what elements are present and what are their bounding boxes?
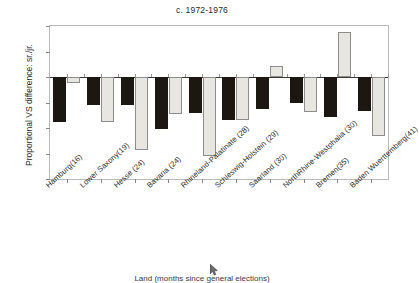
x-axis-minor-tick [388,74,389,77]
bar-senior-6 [256,77,269,109]
x-axis-tick [101,179,102,183]
mouse-cursor-icon [210,264,219,276]
x-axis-minor-tick [253,74,254,77]
x-axis-minor-tick [151,74,152,77]
bar-senior-4 [189,77,202,113]
x-axis-tick [168,179,169,183]
x-axis-minor-tick [354,74,355,77]
y-axis-title: Proportional VS difference: sr./jr. [24,20,34,190]
x-axis-title: Land (months since general elections) [0,274,404,283]
y-axis-tick [46,77,50,78]
x-axis-tick [304,179,305,183]
x-axis-minor-tick [185,74,186,77]
bar-senior-2 [121,77,134,105]
bar-senior-1 [87,77,100,105]
y-axis-tick [46,154,50,155]
x-axis-tick [371,179,372,183]
x-axis-tick [67,179,68,183]
bar-junior-6 [270,66,283,77]
bar-junior-1 [101,77,114,122]
bar-junior-3 [169,77,182,114]
x-axis-tick [202,179,203,183]
bar-senior-8 [324,77,337,117]
bar-senior-5 [222,77,235,120]
x-axis-tick [337,179,338,183]
y-axis-tick [46,52,50,53]
bar-senior-3 [155,77,168,129]
bar-junior-2 [135,77,148,150]
x-axis-minor-tick [287,74,288,77]
bar-junior-9 [372,77,385,136]
bar-junior-0 [67,77,80,83]
bar-junior-7 [304,77,317,112]
y-axis-tick [46,103,50,104]
x-axis-minor-tick [84,74,85,77]
bar-senior-0 [53,77,66,122]
x-axis-minor-tick [320,74,321,77]
bar-senior-9 [358,77,371,111]
x-axis-minor-tick [219,74,220,77]
x-axis-minor-tick [118,74,119,77]
x-axis-tick [270,179,271,183]
bar-junior-5 [236,77,249,120]
bar-junior-8 [338,32,351,77]
x-axis-tick [135,179,136,183]
bar-junior-4 [203,77,216,156]
y-axis-tick [46,128,50,129]
x-axis-tick [236,179,237,183]
bar-senior-7 [290,77,303,103]
chart-title: c. 1972-1976 [0,5,404,15]
y-axis-tick [46,26,50,27]
